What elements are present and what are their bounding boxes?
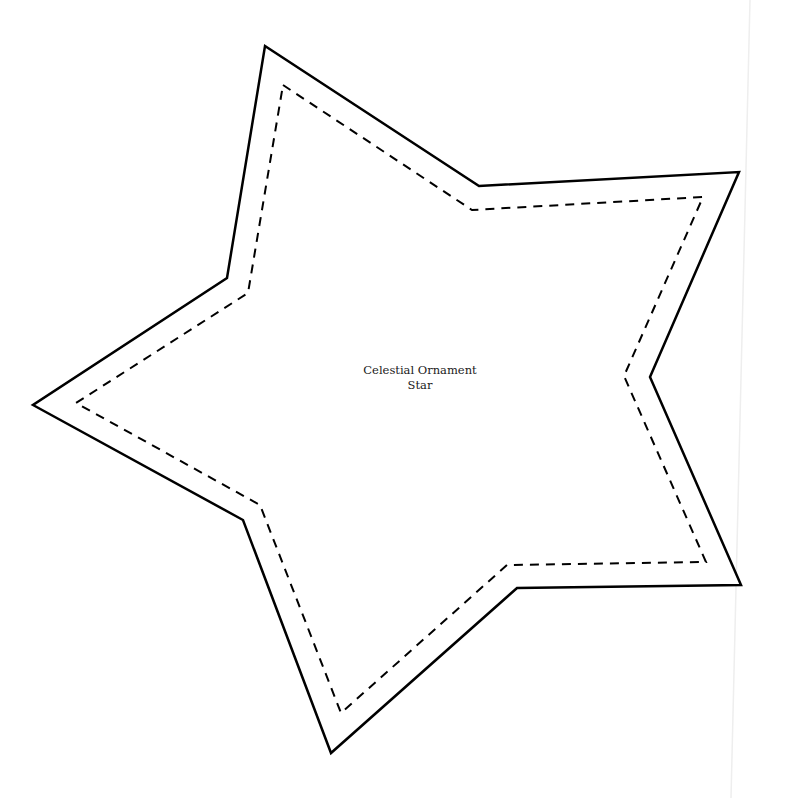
template-title: Celestial Ornament [340,363,500,378]
star-label: Celestial Ornament Star [340,363,500,393]
star-template-canvas [0,0,787,798]
template-subtitle: Star [340,378,500,393]
page-edge-line [731,0,750,798]
